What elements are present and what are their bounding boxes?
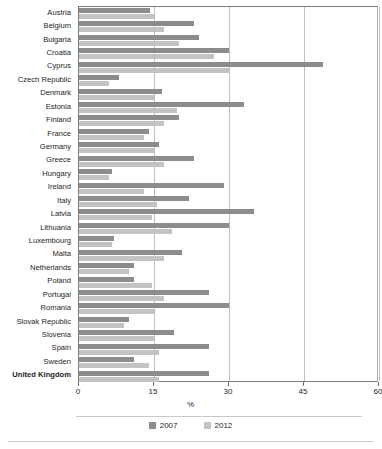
- legend-label: 2012: [215, 421, 233, 430]
- x-tick: [303, 382, 304, 386]
- category-label: Slovak Republic: [17, 318, 71, 326]
- bar-2012: [79, 377, 159, 382]
- plot-area: [78, 6, 378, 382]
- gridline: [379, 7, 380, 381]
- legend-swatch-icon: [204, 422, 211, 429]
- category-label: Spain: [52, 344, 71, 352]
- bar-row: [79, 208, 377, 221]
- legend-item: 2012: [204, 421, 233, 430]
- bar-2012: [79, 202, 157, 207]
- bar-row: [79, 34, 377, 47]
- x-tick: [228, 382, 229, 386]
- bar-row: [79, 329, 377, 342]
- bar-2012: [79, 256, 164, 261]
- bar-2007: [79, 290, 209, 295]
- bar-2007: [79, 183, 224, 188]
- bar-2012: [79, 229, 172, 234]
- bar-2007: [79, 330, 174, 335]
- category-axis-labels: AustriaBelgiumBulgariaCroatiaCyprusCzech…: [0, 6, 75, 382]
- category-label: Poland: [47, 277, 71, 285]
- bar-2007: [79, 263, 134, 268]
- category-label: Lithuania: [40, 224, 71, 232]
- x-tick-label: 60: [374, 387, 382, 396]
- bar-2007: [79, 75, 119, 80]
- x-tick: [378, 382, 379, 386]
- bar-row: [79, 168, 377, 181]
- bar-row: [79, 276, 377, 289]
- bar-2007: [79, 250, 182, 255]
- bar-row: [79, 289, 377, 302]
- chart-legend: 20072012: [0, 421, 381, 430]
- x-tick-label: 45: [299, 387, 308, 396]
- bar-row: [79, 141, 377, 154]
- category-label: Estonia: [46, 103, 71, 111]
- category-label: Italy: [57, 197, 71, 205]
- bar-2007: [79, 62, 323, 67]
- category-label: Malta: [52, 250, 71, 258]
- category-label: Croatia: [47, 49, 71, 57]
- category-label: Romania: [41, 304, 71, 312]
- legend-divider: [76, 416, 362, 417]
- category-label: Denmark: [40, 89, 71, 97]
- bar-2007: [79, 303, 229, 308]
- bar-2012: [79, 14, 154, 19]
- bar-row: [79, 370, 377, 383]
- bar-2007: [79, 357, 134, 362]
- bar-rows: [79, 7, 377, 381]
- x-tick: [153, 382, 154, 386]
- bar-2012: [79, 269, 129, 274]
- bar-2007: [79, 344, 209, 349]
- legend-label: 2007: [160, 421, 178, 430]
- category-label: Bulgaria: [43, 36, 71, 44]
- bar-row: [79, 182, 377, 195]
- bar-row: [79, 47, 377, 60]
- bar-2007: [79, 129, 149, 134]
- bar-2012: [79, 215, 152, 220]
- x-tick-label: 30: [224, 387, 233, 396]
- x-tick: [78, 382, 79, 386]
- bar-2007: [79, 48, 229, 53]
- category-label: Germany: [40, 143, 71, 151]
- bar-2012: [79, 336, 154, 341]
- bar-row: [79, 155, 377, 168]
- bar-2012: [79, 323, 124, 328]
- category-label: Czech Republic: [18, 76, 71, 84]
- bar-2012: [79, 27, 164, 32]
- bar-2007: [79, 223, 229, 228]
- bar-2012: [79, 162, 164, 167]
- category-label: Portugal: [43, 291, 71, 299]
- category-label: France: [47, 130, 71, 138]
- category-label: Hungary: [42, 170, 71, 178]
- bar-row: [79, 249, 377, 262]
- bar-row: [79, 316, 377, 329]
- category-label: Ireland: [48, 183, 71, 191]
- category-label: Netherlands: [30, 264, 71, 272]
- legend-item: 2007: [149, 421, 178, 430]
- bar-row: [79, 222, 377, 235]
- bar-row: [79, 20, 377, 33]
- bar-2012: [79, 309, 154, 314]
- category-label: Latvia: [51, 210, 71, 218]
- footer-divider: [8, 441, 373, 442]
- bar-2007: [79, 196, 189, 201]
- x-tick-label: 15: [149, 387, 158, 396]
- bar-row: [79, 7, 377, 20]
- bar-2012: [79, 41, 179, 46]
- bar-2012: [79, 350, 159, 355]
- category-label: United Kingdom: [12, 371, 71, 379]
- bar-2007: [79, 35, 199, 40]
- bar-2007: [79, 277, 134, 282]
- bar-2007: [79, 156, 194, 161]
- bar-2007: [79, 142, 159, 147]
- bar-2012: [79, 54, 214, 59]
- x-axis-title: %: [0, 400, 381, 409]
- legend-swatch-icon: [149, 422, 156, 429]
- bar-2012: [79, 135, 144, 140]
- category-label: Slovenia: [42, 331, 71, 339]
- bar-2012: [79, 68, 229, 73]
- bar-row: [79, 88, 377, 101]
- bar-row: [79, 74, 377, 87]
- bar-2012: [79, 296, 164, 301]
- bar-2012: [79, 108, 177, 113]
